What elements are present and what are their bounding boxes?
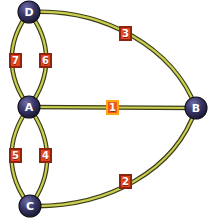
node-D[interactable]: D — [18, 1, 40, 23]
edge-label-5[interactable]: 5 — [9, 148, 22, 163]
node-B[interactable]: B — [185, 97, 207, 119]
edge-label-7[interactable]: 7 — [9, 53, 22, 68]
node-A[interactable]: A — [18, 96, 40, 118]
edge-3-core[interactable] — [29, 12, 196, 108]
edge-label-1[interactable]: 1 — [106, 100, 119, 115]
edge-label-2[interactable]: 2 — [119, 174, 132, 189]
graph-canvas: D A B C 1 2 3 4 5 6 7 — [0, 0, 215, 224]
edge-label-3[interactable]: 3 — [119, 26, 132, 41]
edge-label-6[interactable]: 6 — [39, 53, 52, 68]
edge-label-4[interactable]: 4 — [39, 148, 52, 163]
node-C[interactable]: C — [19, 195, 41, 217]
edge-2-core[interactable] — [30, 108, 196, 206]
